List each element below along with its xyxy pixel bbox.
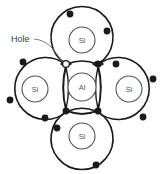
- covalent-bond-diagram: Si Si Si Si Al: [0, 0, 164, 174]
- bond-lens-bottom: [68, 108, 96, 114]
- si-top-label: Si: [79, 36, 86, 45]
- electron-dot: [93, 162, 100, 169]
- electron-dot: [7, 97, 14, 104]
- hole-label: Hole: [11, 34, 30, 44]
- bond-bottom-pair: [68, 108, 96, 114]
- atom-si-top: Si: [69, 27, 95, 53]
- atom-al-center: Al: [68, 73, 96, 101]
- electron-dot: [104, 28, 111, 35]
- electron-dot: [63, 61, 70, 68]
- electron-dot: [150, 76, 157, 83]
- diagram-canvas: Si Si Si Si Al: [0, 0, 164, 174]
- si-right-label: Si: [126, 85, 133, 94]
- atom-si-right: Si: [116, 76, 142, 102]
- electron-dot: [67, 11, 74, 18]
- si-bottom-label: Si: [79, 132, 86, 141]
- electron-dot: [140, 114, 147, 121]
- electron-dot: [95, 108, 102, 115]
- electron-dot: [20, 59, 27, 66]
- electron-dot: [42, 115, 49, 122]
- electron-dot: [113, 61, 120, 68]
- electron-dot: [54, 125, 61, 132]
- atom-si-left: Si: [22, 76, 48, 102]
- electron-dot: [63, 108, 70, 115]
- electron-dot: [95, 61, 102, 68]
- al-label: Al: [79, 83, 86, 92]
- atom-si-bottom: Si: [69, 123, 95, 149]
- si-left-label: Si: [32, 85, 39, 94]
